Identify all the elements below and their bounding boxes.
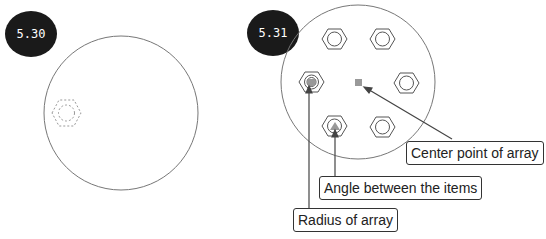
nut-hole-preview-icon xyxy=(59,105,75,121)
callout-angle-between-items: Angle between the items xyxy=(319,176,482,200)
center-leader-line xyxy=(366,88,452,139)
callout-center-point: Center point of array xyxy=(406,141,544,165)
arrowhead-icon xyxy=(364,87,372,93)
array-boundary-circle xyxy=(44,36,198,190)
polar-array-diagram xyxy=(0,0,546,239)
arrowhead-icon xyxy=(332,130,338,137)
callout-radius-of-array: Radius of array xyxy=(293,208,398,232)
center-point-marker-icon xyxy=(355,79,362,86)
hex-nut-preview-icon xyxy=(52,100,81,126)
figure-5-30-drawing xyxy=(44,36,198,190)
